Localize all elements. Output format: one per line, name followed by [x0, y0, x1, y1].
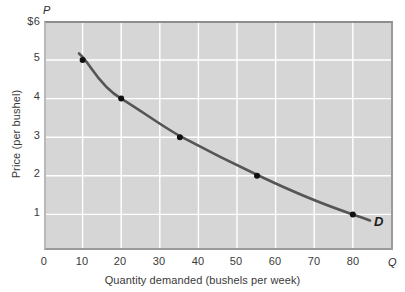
x-tick-0: 0: [24, 256, 64, 267]
data-point-35-3: [177, 134, 183, 140]
y-axis-symbol-p: P: [43, 4, 50, 16]
demand-curve-chart: $6 5 4 3 2 1 0 10 20 30 40 50 60 70 80 P…: [0, 0, 405, 292]
data-point-55-2: [254, 173, 260, 179]
plot-area: [44, 21, 393, 250]
data-point-80-1: [350, 211, 356, 217]
x-tick-60: 60: [255, 256, 295, 267]
x-axis-title: Quantity demanded (bushels per week): [0, 274, 405, 286]
horizontal-gridlines: [46, 60, 391, 214]
x-tick-30: 30: [139, 256, 179, 267]
data-point-20-4: [118, 96, 124, 102]
x-tick-50: 50: [216, 256, 256, 267]
data-point-10-5: [80, 57, 86, 63]
x-tick-80: 80: [333, 256, 373, 267]
x-tick-labels: 0 10 20 30 40 50 60 70 80: [0, 256, 405, 272]
demand-curve-label: D: [374, 214, 383, 229]
x-tick-70: 70: [294, 256, 334, 267]
x-tick-20: 20: [100, 256, 140, 267]
plot-svg: [46, 23, 391, 248]
x-tick-40: 40: [178, 256, 218, 267]
x-tick-10: 10: [62, 256, 102, 267]
y-axis-title: Price (per bushel): [10, 54, 22, 214]
x-axis-symbol-q: Q: [388, 256, 397, 268]
y-tick-6: $6: [0, 16, 40, 27]
